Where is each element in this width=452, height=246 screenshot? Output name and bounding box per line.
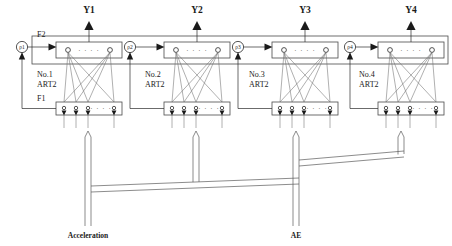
module-4-f1-node-3 bbox=[408, 106, 411, 109]
module-3-f1-ellipsis: · · · · bbox=[306, 105, 328, 113]
module-1-reset-arrowhead bbox=[19, 52, 25, 59]
module-2-f2-node-2 bbox=[216, 48, 221, 53]
module-2-output-arrowhead bbox=[192, 21, 201, 30]
module-4-number-label: No.4 bbox=[359, 70, 375, 79]
module-4-f1-ellipsis: · · · · bbox=[412, 105, 434, 113]
module-1-f1-nodes: · · · · bbox=[62, 105, 117, 116]
art2-module-4: · · · · · · · · bbox=[344, 5, 444, 116]
module-2-type-label: ART2 bbox=[145, 80, 165, 89]
output-label-y3: Y3 bbox=[299, 5, 311, 15]
module-2-f1-node-3 bbox=[194, 106, 197, 109]
module-4-vigilance-to-f2-arrowhead bbox=[371, 44, 379, 51]
module-1-f1-node-4 bbox=[112, 106, 115, 109]
module-4-reset-arrowhead bbox=[347, 52, 353, 59]
module-3-f1-node-1 bbox=[278, 106, 281, 109]
module-2-vigilance-to-f2-arrowhead bbox=[157, 44, 165, 51]
module-4-f1-node-1 bbox=[384, 106, 387, 109]
module-1-f2-node-1 bbox=[66, 48, 71, 53]
art2-module-2: · · · · · · · · bbox=[124, 5, 230, 116]
output-label-y2: Y2 bbox=[191, 5, 203, 15]
module-4-f2-node-2 bbox=[430, 48, 435, 53]
output-label-y1: Y1 bbox=[83, 5, 95, 15]
f1-layer-label: F1 bbox=[37, 94, 45, 103]
module-2-f2-ellipsis: · · · · bbox=[186, 47, 208, 55]
module-2-f1-node-1 bbox=[170, 106, 173, 109]
module-3-type-label: ART2 bbox=[249, 80, 269, 89]
input-label-acceleration: Acceleration bbox=[68, 231, 109, 240]
module-2-weight-connections bbox=[172, 52, 222, 102]
module-4-output-arrowhead bbox=[406, 21, 415, 30]
input-label-ae: AE bbox=[291, 231, 301, 240]
module-2-f1-nodes: · · · · bbox=[170, 105, 225, 116]
module-4-f1-node-2 bbox=[396, 106, 399, 109]
module-3-vigilance-label: ρ3 bbox=[235, 44, 241, 50]
module-2-number-label: No.2 bbox=[145, 70, 161, 79]
module-2-f1-node-4 bbox=[220, 106, 223, 109]
module-1-f1-node-3 bbox=[86, 106, 89, 109]
module-2-reset-arrowhead bbox=[127, 52, 133, 59]
module-3-f1-node-2 bbox=[290, 106, 293, 109]
module-3-f1-node-4 bbox=[328, 106, 331, 109]
module-3-reset-arrowhead bbox=[235, 52, 241, 59]
module-1-weight-connections bbox=[64, 52, 114, 102]
output-label-y4: Y4 bbox=[405, 5, 417, 15]
art2-module-3: · · · · · · · · bbox=[232, 5, 338, 116]
module-1-f2-ellipsis: · · · · bbox=[78, 47, 100, 55]
module-4-f1-node-4 bbox=[434, 106, 437, 109]
module-4-f2-ellipsis: · · · · bbox=[400, 47, 422, 55]
module-4-f2-node-1 bbox=[388, 48, 393, 53]
module-4-f1-nodes: · · · · bbox=[384, 105, 439, 116]
module-1-f2-node-2 bbox=[108, 48, 113, 53]
f2-layer-label: F2 bbox=[37, 30, 45, 39]
module-1-f1-node-1 bbox=[62, 106, 65, 109]
ae-input-bus bbox=[293, 131, 404, 226]
module-2-f2-node-1 bbox=[174, 48, 179, 53]
module-1-output-arrowhead bbox=[84, 21, 93, 30]
module-3-f1-nodes: · · · · bbox=[278, 105, 333, 116]
acceleration-input-bus bbox=[85, 131, 299, 226]
module-3-output-arrowhead bbox=[300, 21, 309, 30]
module-3-f2-node-2 bbox=[324, 48, 329, 53]
f1-input-stubs bbox=[64, 115, 436, 128]
module-1-number-label: No.1 bbox=[37, 70, 53, 79]
module-1-type-label: ART2 bbox=[37, 80, 57, 89]
module-4-type-label: ART2 bbox=[359, 80, 379, 89]
art2-network-diagram: · · · · · · · · bbox=[0, 0, 452, 246]
module-1-vigilance-to-f2-arrowhead bbox=[49, 44, 57, 51]
module-1-vigilance-label: ρ1 bbox=[19, 44, 25, 50]
module-3-number-label: No.3 bbox=[249, 70, 265, 79]
module-3-f1-node-3 bbox=[302, 106, 305, 109]
module-3-vigilance-to-f2-arrowhead bbox=[265, 44, 273, 51]
diagram-canvas: · · · · · · · · bbox=[0, 0, 452, 246]
module-2-f1-node-2 bbox=[182, 106, 185, 109]
module-2-f1-ellipsis: · · · · bbox=[198, 105, 220, 113]
module-4-vigilance-label: ρ4 bbox=[347, 44, 353, 50]
module-1-f1-ellipsis: · · · · bbox=[90, 105, 112, 113]
module-2-vigilance-label: ρ2 bbox=[127, 44, 133, 50]
module-4-weight-connections bbox=[386, 52, 436, 102]
module-3-weight-connections bbox=[280, 52, 330, 102]
module-1-f1-node-2 bbox=[74, 106, 77, 109]
module-3-f2-ellipsis: · · · · bbox=[294, 47, 316, 55]
module-3-f2-node-1 bbox=[282, 48, 287, 53]
